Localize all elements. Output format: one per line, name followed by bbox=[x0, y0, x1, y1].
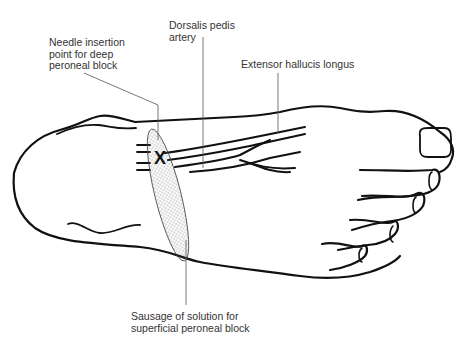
needle-insertion-marker: X bbox=[154, 148, 166, 168]
label-sausage-of-solution: Sausage of solution for superficial pero… bbox=[131, 311, 249, 334]
label-dorsalis-pedis-artery: Dorsalis pedis artery bbox=[169, 20, 235, 43]
leader-lines bbox=[84, 37, 278, 305]
sausage-of-solution bbox=[139, 126, 197, 264]
label-needle-insertion-point: Needle insertion point for deep peroneal… bbox=[49, 37, 125, 72]
tendons bbox=[165, 127, 305, 172]
foot-outline bbox=[14, 106, 453, 278]
label-extensor-hallucis-longus: Extensor hallucis longus bbox=[241, 59, 354, 71]
